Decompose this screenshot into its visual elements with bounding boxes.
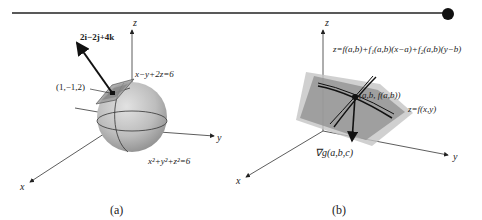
surface-label-b: z=f(x,y) [407, 104, 436, 114]
x-axis-b [246, 131, 323, 177]
x-label-b: x [235, 175, 241, 186]
y-label-b: y [452, 151, 458, 162]
x-axis-a [30, 130, 110, 182]
bullet-dot-icon [442, 8, 454, 20]
caption-a: (a) [110, 203, 123, 217]
gradient-label-b: ∇g(a,b,c) [315, 147, 354, 159]
sphere-label-a: x²+y²+z²=6 [147, 156, 191, 166]
panel-b: z y x z=f(a,b)+f₁(a,b)(x−a)+f₂(a,b)(y−b)… [235, 17, 461, 217]
z-label-a: z [132, 17, 137, 28]
plane-label-a: x−y+2z=6 [134, 69, 174, 79]
figure-canvas: z y x 2i−2j+4k (1,−1,2) x−y+2z=6 x²+y²+z… [0, 0, 482, 220]
header-rule [12, 8, 454, 20]
z-label-b: z [324, 17, 329, 28]
point-label-b: (a,b, f(a,b)) [359, 90, 401, 100]
y-label-a: y [216, 132, 222, 143]
tangent-plane-label-b: z=f(a,b)+f₁(a,b)(x−a)+f₂(a,b)(y−b) [332, 44, 461, 54]
point-label-a: (1,−1,2) [56, 82, 85, 92]
vector-label-a: 2i−2j+4k [80, 32, 114, 42]
caption-b: (b) [332, 203, 346, 217]
x-label-a: x [19, 181, 25, 192]
panel-a: z y x 2i−2j+4k (1,−1,2) x−y+2z=6 x²+y²+z… [19, 17, 222, 217]
